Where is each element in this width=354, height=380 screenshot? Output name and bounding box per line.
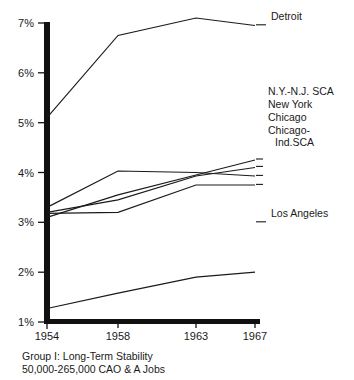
y-axis-ticks xyxy=(38,23,45,322)
y-tick-label-3: 3% xyxy=(18,216,34,228)
label-leaders xyxy=(256,25,266,222)
y-tick-label-7: 7% xyxy=(18,17,34,29)
series-label-ny-nj-sca: N.Y.-N.J. SCA xyxy=(268,85,334,97)
series-line-ny-nj-sca xyxy=(47,160,255,217)
chart-figure: 7% 6% 5% 4% 3% 2% 1% 1954 1958 1963 1967 xyxy=(0,0,354,380)
y-tick-label-5: 5% xyxy=(18,117,34,129)
series-label-chicago: Chicago xyxy=(268,111,307,123)
series-label-new-york: New York xyxy=(268,98,313,110)
series-label-chicago-ind-sca-line2: Ind.SCA xyxy=(275,136,314,148)
y-tick-label-4: 4% xyxy=(18,167,34,179)
line-chart-canvas: 7% 6% 5% 4% 3% 2% 1% 1954 1958 1963 1967 xyxy=(0,0,354,380)
x-tick-label-1967: 1967 xyxy=(243,330,267,342)
data-series-group xyxy=(47,18,255,309)
y-tick-label-6: 6% xyxy=(18,67,34,79)
series-label-chicago-ind-sca: Chicago- xyxy=(268,124,311,136)
series-line-detroit xyxy=(47,18,255,118)
series-label-los-angeles: Los Angeles xyxy=(271,207,328,219)
series-label-detroit: Detroit xyxy=(271,10,302,22)
caption-line-1: Group I: Long-Term Stability xyxy=(22,350,153,362)
y-tick-label-1: 1% xyxy=(18,316,34,328)
series-line-los-angeles xyxy=(47,272,255,308)
x-tick-label-1958: 1958 xyxy=(106,330,130,342)
x-axis-bar xyxy=(44,319,260,324)
x-tick-label-1954: 1954 xyxy=(35,330,59,342)
y-tick-label-2: 2% xyxy=(18,266,34,278)
x-tick-label-1963: 1963 xyxy=(184,330,208,342)
caption-line-2: 50,000-265,000 CAO & A Jobs xyxy=(22,363,165,375)
